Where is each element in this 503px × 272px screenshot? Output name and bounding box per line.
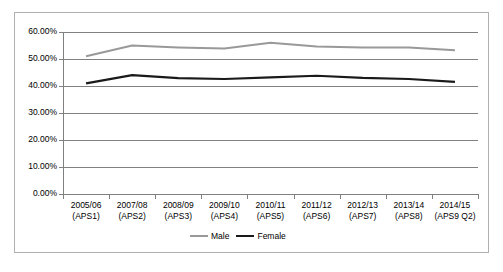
legend-swatch-male <box>190 235 208 237</box>
gridline <box>63 32 478 33</box>
legend-swatch-female <box>236 235 254 237</box>
y-axis-tick-label: 10.00% <box>5 162 57 171</box>
x-tick-mark <box>294 194 295 199</box>
y-tick-mark <box>59 167 64 168</box>
gridline <box>63 194 478 195</box>
y-tick-mark <box>59 32 64 33</box>
legend-entry-male[interactable]: Male <box>190 231 229 241</box>
x-axis-tick-label: 2014/15(APS9 Q2) <box>426 200 484 222</box>
chart-screenshot: 60.00%50.00%40.00%30.00%20.00%10.00%0.00… <box>0 0 503 272</box>
x-tick-mark <box>63 194 64 199</box>
gridline <box>63 140 478 141</box>
y-axis-tick-label: 50.00% <box>5 54 57 63</box>
chart-legend: MaleFemale <box>190 231 286 241</box>
y-axis-tick-label: 60.00% <box>5 27 57 36</box>
gridline <box>63 167 478 168</box>
x-tick-mark <box>155 194 156 199</box>
y-axis-tick-label: 40.00% <box>5 81 57 90</box>
y-tick-mark <box>59 140 64 141</box>
y-axis-tick-label: 0.00% <box>5 189 57 198</box>
x-tick-mark <box>340 194 341 199</box>
y-tick-mark <box>59 86 64 87</box>
x-tick-mark <box>432 194 433 199</box>
y-axis-labels: 60.00%50.00%40.00%30.00%20.00%10.00%0.00… <box>0 0 57 272</box>
gridline <box>63 113 478 114</box>
x-label-year: 2014/15 <box>426 200 484 211</box>
x-tick-mark <box>247 194 248 199</box>
y-tick-mark <box>59 113 64 114</box>
legend-entry-female[interactable]: Female <box>236 231 285 241</box>
y-tick-mark <box>59 59 64 60</box>
x-tick-mark <box>109 194 110 199</box>
x-label-aps: (APS9 Q2) <box>426 211 484 222</box>
plot-area <box>63 32 478 194</box>
gridline <box>63 59 478 60</box>
gridline <box>63 86 478 87</box>
x-tick-mark <box>201 194 202 199</box>
legend-label-female: Female <box>257 231 285 241</box>
x-tick-mark <box>478 194 479 199</box>
y-axis-tick-label: 20.00% <box>5 135 57 144</box>
y-axis-tick-label: 30.00% <box>5 108 57 117</box>
legend-label-male: Male <box>211 231 229 241</box>
x-tick-mark <box>386 194 387 199</box>
